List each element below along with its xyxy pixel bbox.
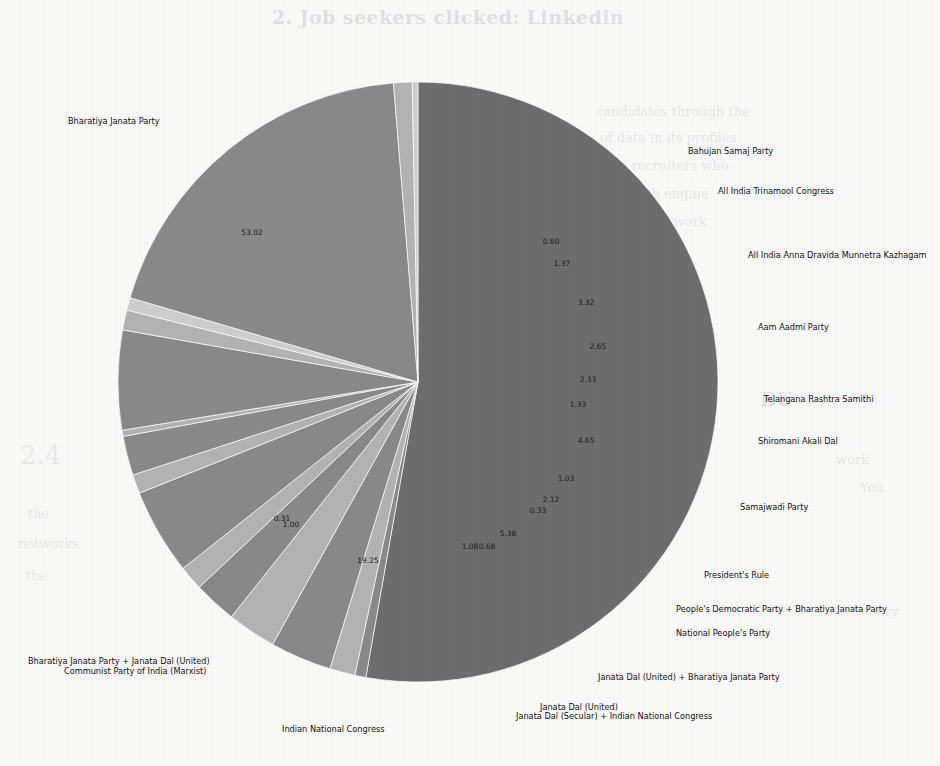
category-label-samajwadi-party: Samajwadi Party	[740, 502, 808, 513]
category-label-peoples-democratic-party-bjp: People's Democratic Party + Bharatiya Ja…	[676, 604, 887, 615]
category-label-telangana-rashtra-samithi: Telangana Rashtra Samithi	[764, 394, 873, 405]
slice-value-label: 2.33	[580, 375, 597, 384]
slice-value-label: 1.37	[554, 259, 571, 268]
category-label-indian-national-congress: Indian National Congress	[282, 724, 384, 735]
slice-value-label: 4.65	[578, 436, 595, 445]
slice-value-label: 1.33	[570, 400, 587, 409]
category-label-all-india-trinamool-congress: All India Trinamool Congress	[718, 186, 834, 197]
category-label-all-india-anna-dravida-munnetra-kazhagam: All India Anna Dravida Munnetra Kazhagam	[748, 250, 926, 261]
slice-value-label: 5.38	[500, 529, 517, 538]
category-label-communist-party-of-india-marxist: Communist Party of India (Marxist)	[64, 666, 206, 677]
slice-value-label: 1.08	[462, 542, 479, 551]
category-label-janata-dal-united-bjp: Janata Dal (United) + Bharatiya Janata P…	[598, 672, 780, 683]
category-label-presidents-rule: President's Rule	[704, 570, 769, 581]
pie-chart-svg: 53.020.601.373.322.652.331.334.651.032.1…	[0, 0, 940, 766]
slice-value-label: 3.32	[578, 298, 595, 307]
slice-value-label: 0.31	[274, 514, 291, 523]
slice-value-label: 19.25	[357, 556, 379, 565]
slice-value-label: 0.60	[543, 237, 560, 246]
pie-slice	[366, 82, 718, 682]
slice-value-label: 53.02	[241, 228, 263, 237]
slice-value-label: 2.65	[590, 342, 607, 351]
category-label-national-peoples-party: National People's Party	[676, 628, 770, 639]
pie-slices	[118, 82, 718, 682]
slice-value-label: 0.33	[530, 506, 547, 515]
slice-value-label: 2.12	[543, 495, 560, 504]
category-label-bharatiya-janata-party: Bharatiya Janata Party	[68, 116, 160, 127]
slice-value-label: 0.68	[479, 542, 496, 551]
category-label-bahujan-samaj-party: Bahujan Samaj Party	[688, 146, 773, 157]
category-label-aam-aadmi-party: Aam Aadmi Party	[758, 322, 829, 333]
category-label-janata-dal-secular-inc: Janata Dal (Secular) + Indian National C…	[516, 711, 712, 722]
slice-value-label: 1.03	[558, 474, 575, 483]
category-label-shiromani-akali-dal: Shiromani Akali Dal	[758, 436, 838, 447]
pie-chart: 53.020.601.373.322.652.331.334.651.032.1…	[0, 0, 940, 766]
